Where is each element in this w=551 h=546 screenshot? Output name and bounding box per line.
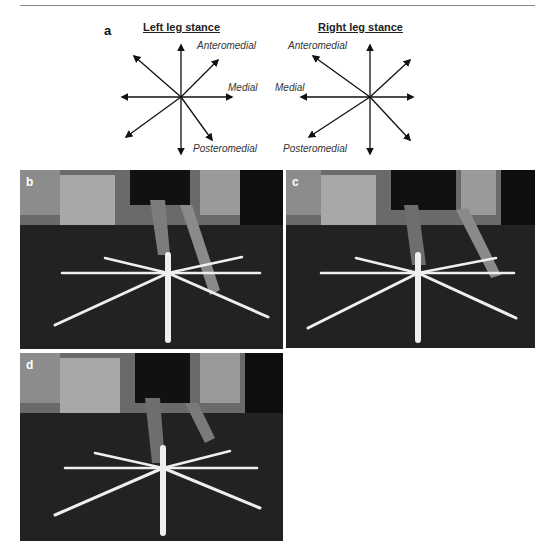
- right-anteromedial-label: Anteromedial: [288, 40, 347, 51]
- right-medial-label: Medial: [275, 82, 304, 93]
- panel-c-letter: c: [292, 175, 299, 189]
- left-medial-label: Medial: [228, 82, 257, 93]
- photo-b-scene: [20, 170, 283, 349]
- panel-b-letter: b: [26, 175, 33, 189]
- photo-panel-d: d: [20, 353, 283, 541]
- left-posteromedial-label: Posteromedial: [193, 143, 257, 154]
- right-posteromedial-label: Posteromedial: [283, 143, 347, 154]
- right-leg-stance-title: Right leg stance: [318, 21, 403, 33]
- panel-d-letter: d: [26, 358, 33, 372]
- photo-panel-b: b: [20, 170, 283, 349]
- photo-c-scene: [286, 170, 535, 348]
- left-anteromedial-label: Anteromedial: [197, 40, 256, 51]
- photo-d-scene: [20, 353, 283, 541]
- photo-panel-c: c: [286, 170, 535, 348]
